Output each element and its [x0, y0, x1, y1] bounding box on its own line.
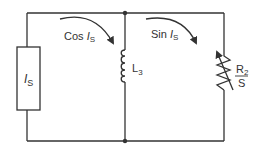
svg-text:S: S: [238, 77, 245, 89]
sin-current-label: Sin IS: [151, 28, 178, 42]
wires: [27, 13, 224, 141]
circuit-diagram: IS L3 R2 S Cos IS Sin IS: [0, 0, 264, 153]
inductor-label: L3: [132, 62, 143, 77]
resistor-label: R2 S: [235, 63, 249, 89]
cos-current-label: Cos IS: [64, 30, 95, 44]
junction-bottom: [123, 139, 127, 143]
inductor-coil: [121, 50, 125, 82]
svg-text:R2: R2: [236, 63, 249, 77]
junction-top: [123, 11, 127, 15]
